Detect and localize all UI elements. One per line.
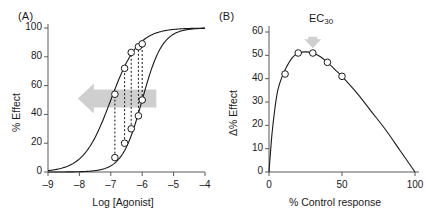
- delta-effect-curve: [269, 52, 415, 172]
- panel-a-x-tick-label: –7: [97, 179, 125, 190]
- panel-b: (B) EC30 % Control response Δ% Effect 01…: [213, 0, 429, 220]
- panel-b-y-tick-label: 10: [237, 142, 263, 153]
- control-data-point: [112, 91, 119, 98]
- delta-effect-data-point: [310, 50, 317, 57]
- panel-b-y-tick-label: 30: [237, 95, 263, 106]
- panel-b-y-tick-label: 40: [237, 72, 263, 83]
- control-data-point: [128, 49, 135, 56]
- panel-a: (A) Log [Agonist] % Effect 020406080100–…: [0, 0, 213, 220]
- panel-a-x-axis-title: Log [Agonist]: [48, 196, 198, 208]
- delta-effect-data-point: [295, 50, 302, 57]
- delta-effect-data-point: [324, 59, 331, 66]
- panel-a-y-tick-label: 40: [14, 107, 42, 118]
- panel-a-x-tick-label: –8: [65, 179, 93, 190]
- control-data-point: [121, 65, 128, 72]
- panel-a-x-tick-label: –5: [160, 179, 188, 190]
- panel-a-y-tick-label: 0: [14, 165, 42, 176]
- panel-b-x-axis-title: % Control response: [255, 196, 415, 208]
- shifted-data-point: [135, 113, 142, 120]
- panel-a-y-tick-label: 100: [14, 21, 42, 32]
- panel-b-y-tick-label: 0: [237, 165, 263, 176]
- figure-container: (A) Log [Agonist] % Effect 020406080100–…: [0, 0, 429, 220]
- shifted-data-point: [128, 126, 135, 133]
- shifted-data-point: [112, 154, 119, 161]
- delta-effect-data-point: [339, 73, 346, 80]
- panel-b-y-tick-label: 20: [237, 118, 263, 129]
- control-data-point: [139, 41, 146, 48]
- panel-a-y-tick-label: 60: [14, 79, 42, 90]
- panel-a-y-tick-label: 80: [14, 50, 42, 61]
- delta-effect-data-point: [282, 71, 289, 78]
- panel-b-axis-lines: [269, 26, 419, 172]
- shifted-data-point: [121, 140, 128, 147]
- panel-b-x-tick-label: 100: [401, 179, 429, 190]
- ec30-down-arrow: [304, 37, 321, 49]
- shifted-data-point: [139, 97, 146, 104]
- panel-a-x-tick-label: –6: [128, 179, 156, 190]
- panel-b-y-tick-label: 60: [237, 25, 263, 36]
- panel-b-x-tick-label: 50: [328, 179, 356, 190]
- panel-b-y-tick-label: 50: [237, 48, 263, 59]
- panel-b-x-tick-label: 0: [255, 179, 283, 190]
- panel-a-y-tick-label: 20: [14, 136, 42, 147]
- panel-a-x-tick-label: –9: [34, 179, 62, 190]
